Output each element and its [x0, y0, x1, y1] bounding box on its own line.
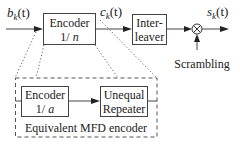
svg-text:1/ a: 1/ a	[36, 102, 54, 116]
inner-encoder-block: Encoder 1/ a	[22, 87, 69, 117]
scrambling-label: Scrambling	[174, 57, 229, 71]
interleaver-label-line2: leaver	[135, 30, 164, 44]
equivalent-mfd-encoder-title: Equivalent MFD encoder	[25, 121, 147, 135]
svg-text:bk(t): bk(t)	[7, 5, 30, 22]
svg-text:1/ n: 1/ n	[60, 30, 78, 44]
encoder-rate-prefix: 1/	[60, 30, 72, 44]
svg-text:ck(t): ck(t)	[100, 4, 122, 21]
repeater-label-line1: Unequal	[104, 88, 145, 102]
inner-encoder-label: Encoder	[25, 88, 65, 102]
coded-signal-arg: (t)	[110, 4, 122, 19]
input-signal: bk(t)	[6, 5, 43, 32]
repeater-label-line2: Repeater	[103, 102, 146, 116]
equivalent-mfd-encoder: Encoder 1/ a Unequal Repeater Equivalent…	[16, 78, 158, 137]
encoder-label: Encoder	[50, 16, 90, 30]
svg-text:sk(t): sk(t)	[207, 4, 228, 21]
inner-encoder-rate-var: a	[48, 102, 54, 116]
mfd-encoder-block-diagram: bk(t) Encoder 1/ n ck(t) Inter- leaver	[0, 0, 240, 146]
arrow-icon	[184, 26, 192, 32]
scrambling-input: Scrambling	[174, 34, 229, 71]
interleaver-block: Inter- leaver	[133, 15, 167, 45]
output-signal: sk(t)	[202, 4, 229, 32]
inner-encoder-rate-prefix: 1/	[36, 102, 48, 116]
multiplier-icon	[192, 24, 202, 34]
input-signal-arg: (t)	[18, 5, 30, 20]
coded-signal: ck(t)	[96, 4, 133, 32]
encoder-block: Encoder 1/ n	[44, 14, 96, 45]
interleaver-label-line1: Inter-	[136, 16, 162, 30]
encoder-rate-var: n	[73, 30, 79, 44]
output-signal-arg: (t)	[216, 4, 228, 19]
unequal-repeater-block: Unequal Repeater	[101, 87, 148, 117]
